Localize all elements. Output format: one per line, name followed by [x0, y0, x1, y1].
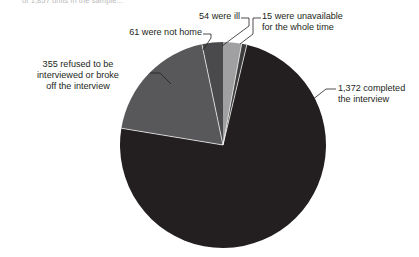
- leader-line-unavailable: [240, 18, 261, 44]
- pie-label-unavailable: 15 were unavailable for the whole time: [262, 11, 414, 33]
- pie-label-completed: 1,372 completed the interview: [338, 83, 418, 105]
- leader-line-completed: [312, 89, 336, 100]
- top-caption-text: of 1,857 units in the sample...: [22, 0, 123, 5]
- pie-label-refused: 355 refused to be interviewed or broke o…: [8, 59, 148, 93]
- pie-label-ill: 54 were ill: [168, 11, 240, 22]
- pie-label-not-home: 61 were not home: [74, 27, 202, 38]
- pie-chart-svg: [0, 0, 419, 257]
- pie-chart-figure: of 1,857 units in the sample... 54 wer: [0, 0, 419, 257]
